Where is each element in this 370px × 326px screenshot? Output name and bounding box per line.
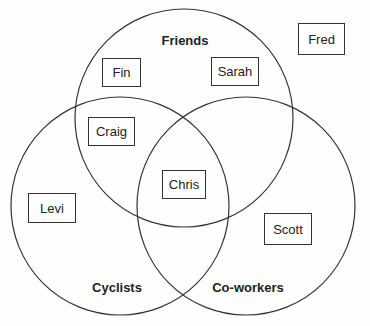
member-box-craig: Craig	[88, 117, 135, 146]
member-box-fred: Fred	[298, 23, 345, 55]
set-label-cyclists: Cyclists	[92, 280, 142, 295]
set-label-friends: Friends	[162, 33, 209, 48]
member-box-fin: Fin	[102, 58, 141, 87]
set-label-coworkers: Co-workers	[212, 280, 284, 295]
member-box-levi: Levi	[28, 193, 76, 223]
member-box-sarah: Sarah	[211, 57, 259, 86]
member-box-chris: Chris	[162, 170, 206, 199]
venn-diagram: FriendsCyclistsCo-workers FinSarahFredCr…	[0, 0, 370, 326]
member-box-scott: Scott	[264, 213, 312, 245]
